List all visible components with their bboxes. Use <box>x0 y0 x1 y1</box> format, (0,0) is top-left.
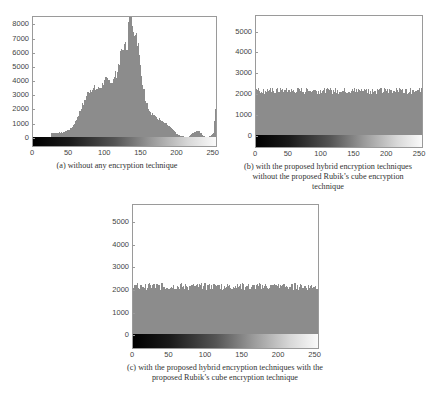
y-tick-mark <box>133 245 135 246</box>
y-tick-mark <box>256 115 258 116</box>
y-tick-label: 4000 <box>0 77 29 85</box>
y-tick-mark <box>33 95 35 96</box>
y-tick-mark <box>133 335 135 336</box>
caption-a: (a) without any encryption technique <box>10 161 224 171</box>
x-tick-label: 50 <box>278 150 298 158</box>
x-tick-label: 250 <box>305 351 325 359</box>
x-tick-label: 150 <box>130 149 150 157</box>
y-tick-mark <box>256 94 258 95</box>
grayscale-colorbar-b <box>256 135 422 147</box>
y-tick-label: 2000 <box>0 105 29 113</box>
y-tick-mark <box>256 136 258 137</box>
x-tick-label: 100 <box>94 149 114 157</box>
y-tick-mark <box>133 267 135 268</box>
x-tick-label: 200 <box>167 149 187 157</box>
y-tick-label: 6000 <box>0 49 29 57</box>
x-tick-label: 250 <box>203 149 223 157</box>
y-tick-mark <box>33 53 35 54</box>
y-tick-label: 8000 <box>0 20 29 28</box>
grayscale-colorbar-a <box>33 137 216 146</box>
histogram-plot-b <box>255 15 423 148</box>
x-tick-label: 50 <box>58 149 78 157</box>
y-tick-mark <box>33 124 35 125</box>
x-tick-label: 250 <box>409 150 429 158</box>
caption-c-line-2: proposed Rubik’s cube encryption techniq… <box>90 373 360 383</box>
y-tick-mark <box>256 73 258 74</box>
y-tick-label: 2000 <box>222 90 252 98</box>
y-tick-mark <box>256 52 258 53</box>
y-tick-label: 3000 <box>0 91 29 99</box>
y-tick-label: 1000 <box>0 120 29 128</box>
caption-c-line-1: (c) with the proposed hybrid encryption … <box>90 363 360 373</box>
y-tick-label: 5000 <box>0 63 29 71</box>
y-tick-mark <box>133 290 135 291</box>
y-tick-mark <box>33 109 35 110</box>
y-tick-label: 0 <box>222 132 252 140</box>
x-tick-label: 50 <box>159 351 179 359</box>
y-tick-label: 1000 <box>222 111 252 119</box>
histogram-plot-a <box>32 16 217 147</box>
y-tick-label: 5000 <box>99 218 129 226</box>
x-tick-label: 0 <box>122 351 142 359</box>
y-tick-mark <box>33 24 35 25</box>
y-tick-label: 0 <box>99 331 129 339</box>
y-tick-label: 4000 <box>222 48 252 56</box>
y-tick-label: 3000 <box>222 69 252 77</box>
x-tick-label: 0 <box>245 150 265 158</box>
x-tick-label: 150 <box>232 351 252 359</box>
histogram-plot-c <box>132 204 319 349</box>
grayscale-colorbar-c <box>133 334 318 348</box>
caption-b-line-2: without the proposed Rubik’s cube encryp… <box>222 172 432 182</box>
y-tick-mark <box>33 138 35 139</box>
caption-b-line-3: technique <box>222 182 432 192</box>
y-tick-label: 2000 <box>99 286 129 294</box>
x-tick-label: 100 <box>311 150 331 158</box>
y-tick-label: 4000 <box>99 241 129 249</box>
caption-b-line-1: (b) with the proposed hybrid encryption … <box>222 162 432 172</box>
y-tick-mark <box>33 39 35 40</box>
histogram-bars-c <box>133 205 318 336</box>
y-tick-label: 0 <box>0 134 29 142</box>
y-tick-label: 5000 <box>222 28 252 36</box>
x-tick-label: 150 <box>343 150 363 158</box>
y-tick-mark <box>33 81 35 82</box>
y-tick-mark <box>133 313 135 314</box>
histogram-bars-a <box>33 17 216 139</box>
histogram-bar <box>422 90 423 137</box>
y-tick-mark <box>133 222 135 223</box>
x-tick-label: 0 <box>22 149 42 157</box>
y-tick-label: 1000 <box>99 309 129 317</box>
y-tick-label: 3000 <box>99 263 129 271</box>
y-tick-mark <box>256 32 258 33</box>
histogram-bars-b <box>256 16 422 137</box>
x-tick-label: 200 <box>268 351 288 359</box>
x-tick-label: 100 <box>195 351 215 359</box>
x-tick-label: 200 <box>376 150 396 158</box>
y-tick-mark <box>33 67 35 68</box>
y-tick-label: 7000 <box>0 35 29 43</box>
